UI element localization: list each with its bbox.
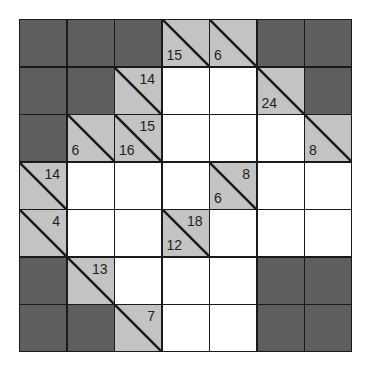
blocked-cell — [258, 258, 304, 304]
blocked-cell — [20, 258, 66, 304]
down-clue: 12 — [167, 237, 183, 253]
clue-cell: 4 — [20, 210, 66, 256]
answer-cell[interactable] — [210, 68, 256, 114]
answer-cell[interactable] — [258, 115, 304, 161]
clue-cell: 86 — [210, 163, 256, 209]
answer-cell[interactable] — [163, 68, 209, 114]
answer-cell[interactable] — [115, 210, 161, 256]
across-clue: 18 — [187, 213, 203, 229]
clue-cell: 14 — [115, 68, 161, 114]
answer-cell[interactable] — [68, 210, 114, 256]
answer-cell[interactable] — [210, 115, 256, 161]
answer-cell[interactable] — [258, 163, 304, 209]
blocked-cell — [305, 305, 351, 351]
answer-cell[interactable] — [258, 210, 304, 256]
across-clue: 8 — [242, 166, 250, 182]
kakuro-board: 1561424615168148641812137 — [19, 19, 352, 352]
blocked-cell — [305, 20, 351, 66]
blocked-cell — [305, 258, 351, 304]
blocked-cell — [68, 20, 114, 66]
clue-cell: 6 — [68, 115, 114, 161]
answer-cell[interactable] — [163, 163, 209, 209]
down-clue: 16 — [119, 142, 135, 158]
clue-cell: 13 — [68, 258, 114, 304]
clue-cell: 24 — [258, 68, 304, 114]
down-clue: 24 — [262, 95, 278, 111]
clue-cell: 1812 — [163, 210, 209, 256]
clue-cell: 14 — [20, 163, 66, 209]
answer-cell[interactable] — [163, 258, 209, 304]
across-clue: 15 — [139, 118, 155, 134]
answer-cell[interactable] — [210, 210, 256, 256]
down-clue: 15 — [167, 47, 183, 63]
down-clue: 6 — [214, 47, 222, 63]
down-clue: 8 — [309, 142, 317, 158]
answer-cell[interactable] — [305, 210, 351, 256]
across-clue: 7 — [147, 308, 155, 324]
blocked-cell — [20, 305, 66, 351]
blocked-cell — [258, 305, 304, 351]
blocked-cell — [20, 115, 66, 161]
clue-cell: 15 — [163, 20, 209, 66]
blocked-cell — [20, 20, 66, 66]
across-clue: 4 — [52, 213, 60, 229]
across-clue: 14 — [44, 166, 60, 182]
blocked-cell — [305, 68, 351, 114]
clue-cell: 7 — [115, 305, 161, 351]
answer-cell[interactable] — [305, 163, 351, 209]
clue-cell: 1516 — [115, 115, 161, 161]
answer-cell[interactable] — [163, 305, 209, 351]
clue-cell: 6 — [210, 20, 256, 66]
blocked-cell — [115, 20, 161, 66]
answer-cell[interactable] — [210, 305, 256, 351]
answer-cell[interactable] — [68, 163, 114, 209]
across-clue: 14 — [139, 71, 155, 87]
answer-cell[interactable] — [163, 115, 209, 161]
blocked-cell — [68, 305, 114, 351]
across-clue: 13 — [92, 261, 108, 277]
answer-cell[interactable] — [115, 163, 161, 209]
answer-cell[interactable] — [210, 258, 256, 304]
down-clue: 6 — [214, 190, 222, 206]
down-clue: 6 — [72, 142, 80, 158]
blocked-cell — [68, 68, 114, 114]
blocked-cell — [258, 20, 304, 66]
answer-cell[interactable] — [115, 258, 161, 304]
clue-cell: 8 — [305, 115, 351, 161]
blocked-cell — [20, 68, 66, 114]
